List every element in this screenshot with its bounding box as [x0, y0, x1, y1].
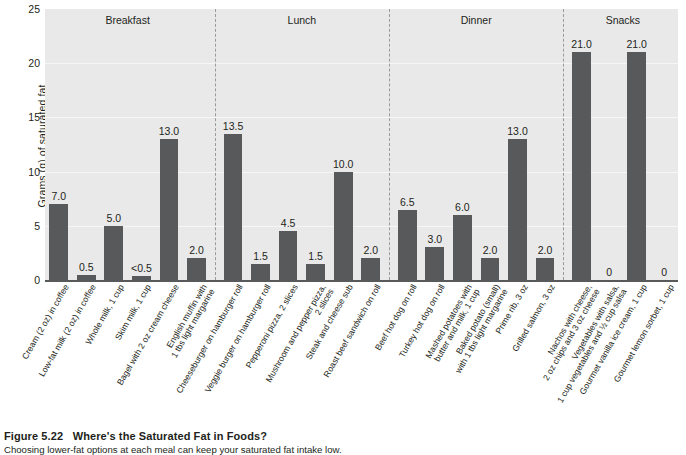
bar-value-label: <0.5 — [131, 262, 152, 274]
bar — [251, 264, 270, 280]
bar — [104, 226, 123, 280]
y-tick-label: 25 — [6, 3, 40, 15]
caption-body: Choosing lower-fat options at each meal … — [4, 444, 682, 455]
bar-value-label: 21.0 — [571, 38, 591, 50]
x-axis-label: Cream (2 oz) in coffee — [20, 283, 71, 361]
bar — [508, 139, 527, 280]
x-axis-baseline — [45, 280, 678, 282]
plot-area: BreakfastLunchDinnerSnacks 7.00.55.0<0.5… — [45, 9, 678, 280]
bar-value-label: 0 — [661, 266, 667, 278]
bar-value-label: 7.0 — [51, 190, 66, 202]
bar — [627, 52, 646, 280]
y-tick-label: 10 — [6, 166, 40, 178]
bar — [453, 215, 472, 280]
bar-value-label: 1.5 — [253, 250, 268, 262]
bar — [361, 258, 380, 280]
section-title-breakfast: Breakfast — [105, 14, 149, 26]
bar — [279, 231, 298, 280]
section-divider — [389, 9, 390, 280]
bar-value-label: 2.0 — [189, 244, 204, 256]
bar-value-label: 6.5 — [400, 196, 415, 208]
bar-value-label: 3.0 — [428, 233, 443, 245]
y-axis-ticks: 0510152025 — [4, 0, 40, 289]
bar-value-label: 13.0 — [159, 125, 179, 137]
bar — [536, 258, 555, 280]
bar-value-label: 2.0 — [363, 244, 378, 256]
bar-value-label: 5.0 — [107, 212, 122, 224]
bar-value-label: 0.5 — [79, 261, 94, 273]
caption-title: Figure 5.22 Where's the Saturated Fat in… — [4, 430, 682, 442]
bar — [187, 258, 206, 280]
section-divider — [563, 9, 564, 280]
section-title-dinner: Dinner — [461, 14, 492, 26]
bar-value-label: 21.0 — [626, 38, 646, 50]
bar-value-label: 0 — [606, 266, 612, 278]
bar — [49, 204, 68, 280]
caption-figure-number: Figure 5.22 — [4, 430, 63, 442]
section-divider — [215, 9, 216, 280]
bar — [224, 134, 243, 280]
bar — [398, 210, 417, 280]
bar-value-label: 13.5 — [223, 120, 243, 132]
bar-value-label: 13.0 — [507, 125, 527, 137]
bar-value-label: 6.0 — [455, 201, 470, 213]
y-tick-label: 15 — [6, 111, 40, 123]
bar-value-label: 2.0 — [538, 244, 553, 256]
bar-value-label: 2.0 — [483, 244, 498, 256]
bar-value-label: 10.0 — [333, 158, 353, 170]
x-axis-labels: Cream (2 oz) in coffeeLow-fat milk (2 oz… — [45, 283, 678, 403]
bar-value-label: 1.5 — [308, 250, 323, 262]
y-tick-label: 0 — [6, 274, 40, 286]
figure-caption: Figure 5.22 Where's the Saturated Fat in… — [4, 430, 682, 455]
section-title-lunch: Lunch — [288, 14, 317, 26]
bar — [481, 258, 500, 280]
section-title-snacks: Snacks — [606, 14, 640, 26]
x-axis-label-line: Cream (2 oz) in coffee — [19, 283, 70, 361]
caption-title-text: Where's the Saturated Fat in Foods? — [73, 430, 267, 442]
y-tick-label: 20 — [6, 57, 40, 69]
bar — [425, 247, 444, 280]
bar-value-label: 4.5 — [281, 217, 296, 229]
bar — [160, 139, 179, 280]
bar — [334, 172, 353, 280]
y-tick-label: 5 — [6, 220, 40, 232]
bar — [306, 264, 325, 280]
bar — [572, 52, 591, 280]
